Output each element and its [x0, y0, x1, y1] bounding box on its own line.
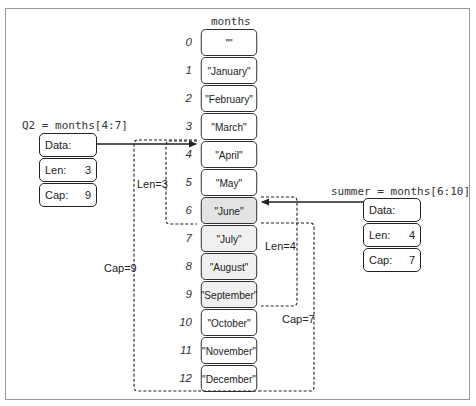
q2-len-annotation: Len=3: [137, 178, 168, 190]
summer-cap-annotation: Cap=7: [282, 313, 315, 325]
q2-cap-value: 9: [85, 189, 91, 201]
q2-expression: Q2 = months[4:7]: [22, 119, 128, 132]
summer-data-field: Data:: [363, 198, 421, 222]
summer-cap-field: Cap: 7: [363, 248, 421, 272]
q2-len-value: 3: [85, 164, 91, 176]
summer-data-label: Data:: [369, 204, 395, 216]
q2-len-extent: [166, 141, 197, 224]
q2-cap-label: Cap:: [45, 189, 68, 201]
q2-data-field: Data:: [39, 133, 97, 157]
summer-len-label: Len:: [369, 229, 390, 241]
q2-cap-field: Cap: 9: [39, 183, 97, 207]
q2-cap-annotation: Cap=9: [104, 262, 137, 274]
summer-len-value: 4: [409, 229, 415, 241]
summer-expression: summer = months[6:10]: [331, 185, 470, 198]
summer-cap-value: 7: [409, 254, 415, 266]
summer-len-field: Len: 4: [363, 223, 421, 247]
summer-cap-label: Cap:: [369, 254, 392, 266]
q2-len-field: Len: 3: [39, 158, 97, 182]
summer-len-annotation: Len=4: [265, 240, 296, 252]
q2-data-label: Data:: [45, 139, 71, 151]
q2-len-label: Len:: [45, 164, 66, 176]
